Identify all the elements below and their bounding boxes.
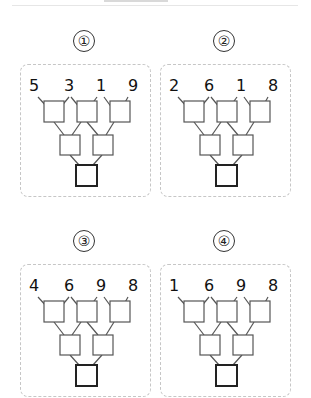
input-2: 3 (64, 76, 74, 95)
input-4: 9 (128, 76, 138, 95)
top-divider (12, 5, 298, 6)
input-1: 5 (29, 76, 39, 95)
input-3: 1 (236, 76, 246, 95)
input-2: 6 (204, 76, 214, 95)
panel-4: ④ 1 6 9 8 (154, 230, 294, 398)
panel-2: ② 2 6 1 8 (154, 30, 294, 230)
input-3: 9 (236, 276, 246, 295)
input-3: 1 (96, 76, 106, 95)
input-2: 6 (64, 276, 74, 295)
input-1: 2 (169, 76, 179, 95)
tree-diagram: 4 6 9 8 (14, 264, 154, 398)
tree-diagram: 2 6 1 8 (154, 64, 294, 204)
input-1: 4 (29, 276, 39, 295)
cropped-header-text (104, 0, 168, 2)
panel-number: ④ (213, 230, 235, 252)
panel-number: ① (73, 30, 95, 52)
panel-3: ③ 4 6 9 8 (14, 230, 154, 398)
panel-number: ② (213, 30, 235, 52)
input-4: 8 (268, 276, 278, 295)
tree-diagram: 1 6 9 8 (154, 264, 294, 398)
input-3: 9 (96, 276, 106, 295)
input-2: 6 (204, 276, 214, 295)
tree-diagram: 5 3 1 9 (14, 64, 154, 204)
panel-1: ① 5 3 1 9 (14, 30, 154, 230)
input-4: 8 (268, 76, 278, 95)
input-4: 8 (128, 276, 138, 295)
panel-number: ③ (73, 230, 95, 252)
input-1: 1 (169, 276, 179, 295)
